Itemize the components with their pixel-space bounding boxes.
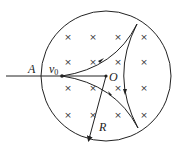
field-mark: × (140, 57, 148, 67)
label-v: v0 (49, 62, 58, 77)
field-mark: × (114, 110, 122, 120)
label-a: A (27, 62, 36, 76)
upper-trajectory (62, 24, 137, 76)
field-mark: × (114, 32, 122, 42)
label-r: R (98, 120, 107, 134)
field-mark: × (64, 57, 72, 67)
right-arrow-icon (123, 89, 127, 95)
field-mark: × (89, 32, 97, 42)
field-mark: × (89, 57, 97, 67)
field-mark: × (89, 110, 97, 120)
field-mark: × (89, 83, 97, 93)
field-mark: × (140, 83, 148, 93)
field-mark: × (140, 110, 148, 120)
field-mark: × (64, 32, 72, 42)
field-mark: × (114, 83, 122, 93)
field-mark: × (64, 83, 72, 93)
right-trajectory (124, 24, 138, 128)
field-mark: × (64, 110, 72, 120)
field-mark: × (114, 57, 122, 67)
field-mark: × (140, 32, 148, 42)
label-o: O (109, 70, 118, 84)
magnetic-field-diagram: × × × × × × × × × × × × × × × × A v0 O R (0, 0, 176, 151)
